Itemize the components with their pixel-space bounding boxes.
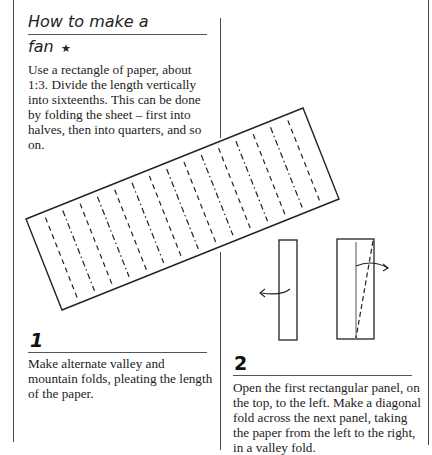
- step-2-number: 2: [234, 352, 247, 374]
- step2-right-panel: [337, 239, 388, 339]
- step2-left-panel: [260, 240, 297, 340]
- step-1-text: Make alternate valley and mountain folds…: [28, 356, 214, 401]
- step-2-text: Open the first rectangular panel, on the…: [233, 380, 423, 455]
- step-1-rule: [28, 352, 207, 353]
- step-2-rule: [233, 375, 412, 376]
- step-1-number: 1: [30, 329, 43, 351]
